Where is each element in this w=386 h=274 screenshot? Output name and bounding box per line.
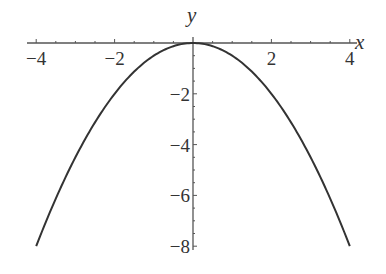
y-tick-label: −6 (170, 185, 190, 206)
tick-labels: −4−224−2−4−6−8 (26, 48, 355, 257)
x-tick-label: 2 (267, 48, 277, 69)
chart: −4−224−2−4−6−8 x y (0, 0, 386, 274)
y-axis-label: y (185, 3, 197, 27)
axes (27, 37, 357, 250)
y-tick-label: −8 (170, 236, 190, 257)
x-tick-label: −2 (104, 48, 124, 69)
x-axis-label: x (354, 30, 365, 54)
y-tick-label: −4 (170, 135, 191, 156)
x-tick-label: 4 (345, 48, 355, 69)
y-tick-label: −2 (170, 84, 190, 105)
x-tick-label: −4 (26, 48, 47, 69)
